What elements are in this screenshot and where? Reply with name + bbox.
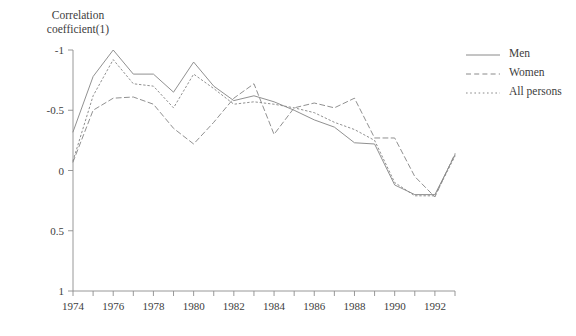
x-axis: 1974197619781980198219841986198819901992 — [62, 291, 455, 312]
x-tick-label: 1986 — [303, 300, 326, 312]
legend: Men Women All persons — [466, 44, 562, 101]
legend-label-men: Men — [509, 44, 530, 63]
line-dashed-icon — [466, 72, 500, 73]
y-tick-label: -0.5 — [47, 104, 65, 116]
y-tick-label: 1 — [59, 285, 65, 297]
series-line-men — [73, 50, 455, 195]
x-tick-label: 1984 — [263, 300, 286, 312]
x-tick-label: 1978 — [142, 300, 165, 312]
line-dotted-icon — [466, 91, 500, 92]
y-tick-label: -1 — [55, 44, 64, 56]
legend-label-all-persons: All persons — [509, 82, 562, 101]
x-tick-label: 1976 — [102, 300, 125, 312]
x-tick-label: 1980 — [183, 300, 206, 312]
y-tick-group: 10.50-0.5-1 — [47, 44, 73, 297]
legend-item-all-persons: All persons — [466, 82, 562, 101]
x-tick-label: 1990 — [384, 300, 407, 312]
series-group — [73, 50, 455, 197]
y-axis: 10.50-0.5-1 — [47, 44, 73, 297]
y-tick-label: 0.5 — [50, 225, 64, 237]
line-solid-icon — [466, 53, 500, 54]
legend-item-women: Women — [466, 63, 562, 82]
correlation-line-chart: Correlation coefficient(1) 10.50-0.5-1 1… — [0, 0, 576, 336]
x-tick-label: 1988 — [343, 300, 366, 312]
y-tick-label: 0 — [59, 165, 65, 177]
x-tick-label: 1982 — [223, 300, 245, 312]
legend-label-women: Women — [509, 63, 544, 82]
series-line-women — [73, 84, 455, 197]
x-tick-label: 1974 — [62, 300, 85, 312]
legend-item-men: Men — [466, 44, 562, 63]
x-tick-label: 1992 — [424, 300, 446, 312]
x-tick-group: 1974197619781980198219841986198819901992 — [62, 291, 455, 312]
series-line-all-persons — [73, 60, 455, 196]
